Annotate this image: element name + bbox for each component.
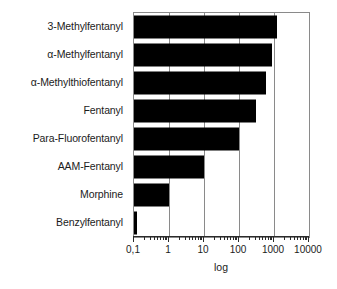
x-tick-minor (290, 237, 291, 240)
x-tick-minor (192, 237, 193, 240)
x-tick-minor (144, 237, 145, 240)
y-axis-label-2: α-Methylthiofentanyl (0, 68, 128, 96)
x-tick-minor (233, 237, 234, 240)
bar[interactable] (134, 156, 204, 179)
bar[interactable] (134, 16, 277, 39)
bar-slot (134, 97, 309, 125)
bar[interactable] (134, 100, 256, 123)
bar[interactable] (134, 72, 266, 95)
bar-slot (134, 209, 309, 237)
x-tick-label: 0,1 (126, 244, 140, 255)
x-tick-minor (249, 237, 250, 240)
y-axis-label-0: 3-Methylfentanyl (0, 12, 128, 40)
x-tick-minor (300, 237, 301, 240)
x-tick-label: 10000 (294, 244, 322, 255)
x-tick-minor (268, 237, 269, 240)
x-tick-minor (160, 237, 161, 240)
x-tick-major (308, 237, 309, 242)
x-tick-minor (185, 237, 186, 240)
x-tick-label: 10 (197, 244, 208, 255)
x-tick-minor (189, 237, 190, 240)
bar[interactable] (134, 212, 137, 235)
bar-slot (134, 153, 309, 181)
bar-slot (134, 41, 309, 69)
x-tick-minor (179, 237, 180, 240)
x-tick-minor (150, 237, 151, 240)
x-tick-minor (157, 237, 158, 240)
x-axis: 0,1110100100010000 log (133, 236, 310, 286)
y-axis-label-6: Morphine (0, 180, 128, 208)
x-tick-minor (224, 237, 225, 240)
x-axis-title: log (214, 261, 228, 273)
x-tick-minor (227, 237, 228, 240)
bar-slot (134, 69, 309, 97)
y-axis-label-7: Benzylfentanyl (0, 208, 128, 236)
x-tick-minor (303, 237, 304, 240)
bar-slot (134, 125, 309, 153)
x-tick-label: 100 (230, 244, 247, 255)
y-axis-label-3: Fentanyl (0, 96, 128, 124)
x-tick-minor (163, 237, 164, 240)
bar[interactable] (134, 128, 239, 151)
x-tick-major (203, 237, 204, 242)
bar-slot (134, 181, 309, 209)
x-tick-major (273, 237, 274, 242)
x-tick-minor (255, 237, 256, 240)
x-tick-minor (220, 237, 221, 240)
x-tick-minor (259, 237, 260, 240)
bar-series (134, 13, 309, 237)
x-tick-major (168, 237, 169, 242)
y-axis-label-5: AAM-Fentanyl (0, 152, 128, 180)
x-tick-minor (214, 237, 215, 240)
x-tick-minor (262, 237, 263, 240)
x-tick-label: 1 (165, 244, 171, 255)
x-tick-minor (265, 237, 266, 240)
x-tick-label: 1000 (262, 244, 284, 255)
x-tick-minor (195, 237, 196, 240)
x-tick-minor (230, 237, 231, 240)
x-tick-minor (297, 237, 298, 240)
y-axis-label-4: Para-Fluorofentanyl (0, 124, 128, 152)
x-tick-major (133, 237, 134, 242)
x-tick-minor (284, 237, 285, 240)
plot-area (133, 12, 310, 238)
bar-chart: 3-Methylfentanyl α-Methylfentanyl α-Meth… (0, 0, 337, 289)
y-axis-label-1: α-Methylfentanyl (0, 40, 128, 68)
x-tick-major (238, 237, 239, 242)
x-tick-minor (294, 237, 295, 240)
x-tick-minor (154, 237, 155, 240)
bar[interactable] (134, 44, 272, 67)
bar-slot (134, 13, 309, 41)
x-tick-minor (198, 237, 199, 240)
bar[interactable] (134, 184, 169, 207)
y-axis-category-labels: 3-Methylfentanyl α-Methylfentanyl α-Meth… (0, 12, 128, 236)
